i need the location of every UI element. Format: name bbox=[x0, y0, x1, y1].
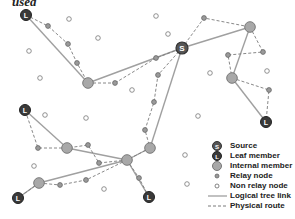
non-relay-node bbox=[43, 113, 48, 118]
relay-node bbox=[113, 81, 118, 86]
dashed-line-icon bbox=[206, 201, 230, 211]
relay-node bbox=[84, 178, 89, 183]
internal-member-node bbox=[122, 155, 133, 166]
relay-node bbox=[86, 143, 91, 148]
legend-item-internal: Internal member bbox=[206, 161, 292, 171]
legend-item-physical-route: Physical route bbox=[206, 201, 292, 211]
relay-node bbox=[46, 24, 51, 29]
leaf-member-node: L bbox=[21, 10, 32, 21]
svg-text:L: L bbox=[264, 119, 269, 126]
tree-link bbox=[182, 27, 250, 48]
legend-item-relay: Relay node bbox=[206, 171, 292, 181]
source-icon: S bbox=[206, 141, 230, 151]
non-relay-node-icon bbox=[206, 181, 230, 191]
tree-link bbox=[232, 78, 266, 122]
non-relay-node bbox=[67, 17, 72, 22]
solid-line-icon bbox=[206, 191, 230, 201]
source-node: S bbox=[176, 42, 188, 54]
non-relay-node bbox=[154, 14, 159, 19]
internal-member-icon bbox=[206, 161, 230, 171]
svg-text:S: S bbox=[179, 44, 185, 53]
leaf-member-node: L bbox=[261, 117, 272, 128]
svg-text:S: S bbox=[215, 144, 219, 150]
svg-text:L: L bbox=[147, 194, 152, 201]
relay-node bbox=[75, 61, 80, 66]
relay-node bbox=[267, 88, 272, 93]
legend-item-nonrelay: Non relay node bbox=[206, 181, 292, 191]
internal-member-node bbox=[245, 22, 256, 33]
non-relay-node bbox=[130, 88, 135, 93]
internal-member-node bbox=[34, 178, 45, 189]
non-relay-node bbox=[185, 182, 190, 187]
tree-link bbox=[67, 148, 127, 160]
relay-node bbox=[152, 100, 157, 105]
physical-route bbox=[145, 48, 182, 148]
leaf-member-node: L bbox=[13, 193, 24, 204]
leaf-member-icon: L bbox=[206, 151, 230, 161]
legend-label: Internal member bbox=[230, 161, 292, 171]
leaf-member-node: L bbox=[144, 192, 155, 203]
non-relay-node bbox=[84, 116, 89, 121]
svg-text:L: L bbox=[24, 12, 29, 19]
relay-node bbox=[156, 73, 161, 78]
relay-node bbox=[58, 183, 63, 188]
legend-label: Source bbox=[230, 141, 257, 151]
relay-node bbox=[202, 16, 207, 21]
legend-label: Leaf member bbox=[230, 151, 280, 161]
physical-route bbox=[228, 27, 263, 78]
svg-text:L: L bbox=[16, 195, 21, 202]
non-relay-node bbox=[183, 153, 188, 158]
svg-text:L: L bbox=[215, 154, 219, 160]
leaf-member-node: L bbox=[20, 105, 31, 116]
non-relay-node bbox=[102, 187, 107, 192]
relay-node-icon bbox=[206, 171, 230, 181]
internal-member-node bbox=[62, 143, 73, 154]
relay-node bbox=[226, 53, 231, 58]
legend-label: Logical tree link bbox=[230, 191, 291, 201]
legend-label: Physical route bbox=[230, 201, 285, 211]
tree-link bbox=[39, 160, 127, 183]
internal-member-node bbox=[145, 143, 156, 154]
legend-item-leaf: L Leaf member bbox=[206, 151, 292, 161]
relay-node bbox=[137, 176, 142, 181]
tree-link bbox=[26, 15, 88, 83]
relay-node bbox=[261, 50, 266, 55]
relay-node bbox=[36, 146, 41, 151]
legend-item-tree-link: Logical tree link bbox=[206, 191, 292, 201]
legend-label: Non relay node bbox=[230, 181, 288, 191]
relay-node bbox=[154, 56, 159, 61]
non-relay-node bbox=[265, 69, 270, 74]
tree-link bbox=[232, 27, 250, 78]
relay-node bbox=[97, 161, 102, 166]
tree-link bbox=[150, 48, 182, 148]
non-relay-node bbox=[38, 76, 43, 81]
non-relay-node bbox=[32, 164, 37, 169]
legend: S Source L Leaf member Internal member R… bbox=[206, 141, 292, 211]
relay-node bbox=[143, 128, 148, 133]
internal-member-node bbox=[83, 78, 94, 89]
non-relay-node bbox=[96, 36, 101, 41]
legend-item-source: S Source bbox=[206, 141, 292, 151]
non-relay-node bbox=[208, 71, 213, 76]
non-relay-node bbox=[166, 32, 171, 37]
internal-member-node bbox=[227, 73, 238, 84]
legend-label: Relay node bbox=[230, 171, 273, 181]
relay-node bbox=[66, 42, 71, 47]
physical-route bbox=[182, 18, 250, 48]
non-relay-node bbox=[27, 49, 32, 54]
non-relay-node bbox=[196, 114, 201, 119]
svg-text:L: L bbox=[23, 107, 28, 114]
